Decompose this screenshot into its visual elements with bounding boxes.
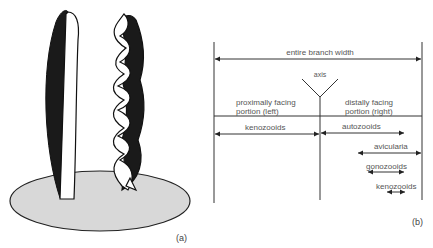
axis-label: axis: [305, 70, 335, 79]
panel-a-label: (a): [176, 233, 187, 243]
left-portion-label-2: portion (left): [236, 107, 279, 116]
gonozooids-label: gonozooids: [366, 162, 407, 171]
panel-b-label: (b): [412, 217, 423, 227]
right-portion-label-1: distally facing: [345, 98, 393, 107]
right-kenozooids-label: kenozooids: [376, 182, 416, 191]
entire-width-label: entire branch width: [270, 48, 370, 57]
left-portion-label-1: proximally facing: [236, 98, 296, 107]
left-kenozooids-label: kenozooids: [245, 123, 285, 132]
flat-blade-branch: [46, 10, 79, 199]
spiral-twisted-branch: [113, 14, 143, 190]
right-portion-label-2: portion (right): [345, 107, 393, 116]
panel-a-illustration: [10, 10, 190, 231]
base-substrate: [10, 171, 190, 231]
autozooids-label: autozooids: [342, 122, 381, 131]
avicularia-label: avicularia: [374, 142, 408, 151]
